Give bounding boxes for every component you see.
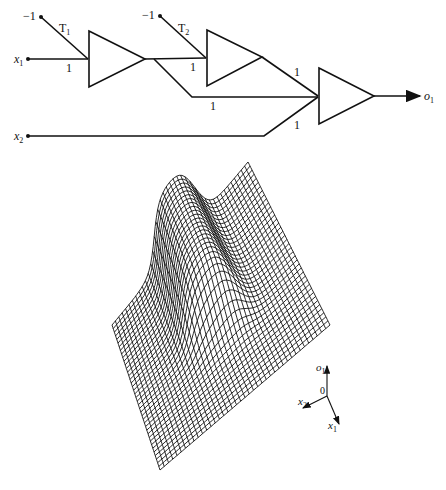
weight-unit2-output-label: 1 [294,66,300,78]
axis-origin-label: 0 [320,385,325,397]
weight-unit1-output-label: 1 [210,100,216,112]
x2-to-output-connection [28,97,318,136]
axis-x1-label: x1 [328,419,337,436]
bias-2-node [158,14,162,18]
unit2-to-output-connection [262,57,318,96]
output-unit [319,68,374,124]
axis-o1-label: o1 [316,361,326,378]
weight-unit1-unit2-label: 1 [190,61,196,73]
weight-x2-output-label: 1 [294,119,300,131]
bias-1-node [39,15,43,19]
output-o1-label: o1 [424,90,434,107]
weight-x1-label: 1 [66,62,72,74]
x2-node [26,134,30,138]
input-x1-label: x1 [14,53,23,70]
unit1-to-unit2-connection [145,58,206,59]
input-x2-label: x2 [14,130,23,147]
x1-node [26,57,30,61]
bias-2-label: −1 [142,9,155,21]
threshold-2-label: T2 [178,22,189,39]
axis-x2-label: x2 [298,395,307,412]
threshold-unit-1 [89,31,145,87]
bias-1-label: −1 [23,10,36,22]
surface-wireframe [112,162,330,470]
threshold-1-label: T1 [59,22,70,39]
threshold-unit-2 [207,30,262,86]
surface-mesh [112,162,330,470]
